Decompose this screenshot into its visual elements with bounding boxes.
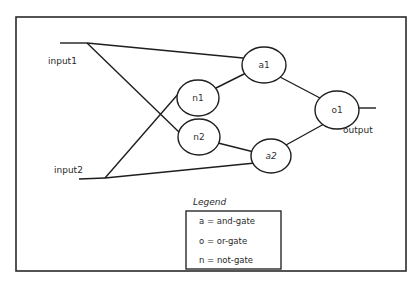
gate-n2: n2 (178, 119, 220, 155)
wire-a1-o1 (280, 77, 320, 98)
legend: Legend a = and-gate o = or-gate n = not-… (186, 197, 281, 269)
wire-input1-a1 (87, 43, 243, 58)
gate-n1-label: n1 (192, 93, 203, 103)
legend-title: Legend (193, 197, 227, 207)
gate-o1-label: o1 (331, 105, 342, 115)
gate-a1-label: a1 (258, 60, 269, 70)
wire-input2-a2 (105, 163, 255, 178)
input1-label: input1 (48, 56, 77, 66)
legend-item-or-gate: o = or-gate (199, 236, 247, 246)
gate-a2-label: a2 (265, 151, 277, 161)
legend-item-and-gate: a = and-gate (199, 216, 255, 226)
gate-a2: a2 (251, 139, 291, 173)
gate-a1: a1 (242, 47, 286, 83)
gate-o1: o1 (315, 91, 359, 129)
legend-item-not-gate: n = not-gate (199, 255, 253, 265)
wire-input2-n1 (105, 93, 179, 178)
input2-stub (79, 178, 105, 179)
wire-n1-a1 (216, 73, 246, 88)
logic-circuit-diagram: a1 n1 n2 a2 o1 input1 input2 output Lege… (0, 0, 417, 289)
input2-label: input2 (54, 165, 83, 175)
wire-a2-o1 (286, 124, 324, 145)
input2-wires (79, 93, 255, 179)
gate-n1: n1 (177, 80, 219, 116)
wire-input1-n2 (87, 43, 181, 134)
output-label: output (343, 125, 373, 135)
wire-n2-a2 (218, 143, 254, 152)
gate-n2-label: n2 (193, 132, 204, 142)
